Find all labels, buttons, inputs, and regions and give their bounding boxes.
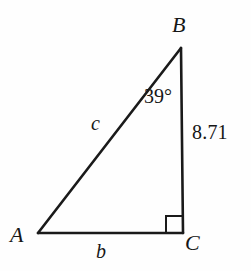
- angle-label-at-b: 39°: [144, 86, 172, 106]
- vertex-label-c: C: [185, 232, 200, 254]
- vertex-label-a: A: [10, 224, 23, 246]
- triangle-figure: A B C c b 39° 8.71: [0, 0, 251, 271]
- side-label-hypotenuse-c: c: [91, 113, 100, 133]
- vertex-label-b: B: [172, 14, 185, 36]
- measure-label-side-bc: 8.71: [192, 122, 228, 142]
- right-angle-marker-icon: [166, 216, 183, 233]
- side-ab-hypotenuse: [38, 48, 181, 233]
- side-bc-vertical: [181, 48, 183, 233]
- side-label-base-b: b: [96, 241, 106, 261]
